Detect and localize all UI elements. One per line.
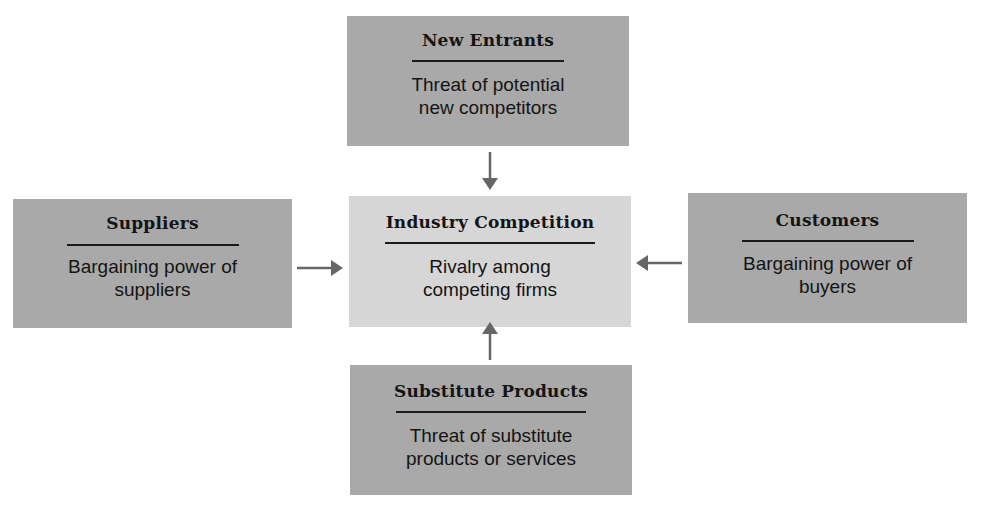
desc-line-1: Threat of substitute <box>350 424 632 447</box>
title-divider <box>67 244 239 246</box>
desc-line-2: new competitors <box>347 96 629 119</box>
node-title: Substitute Products <box>350 381 632 401</box>
node-description: Bargaining power of suppliers <box>13 255 292 301</box>
node-substitute-products: Substitute Products Threat of substitute… <box>350 365 632 495</box>
node-description: Threat of potential new competitors <box>347 73 629 119</box>
desc-line-1: Threat of potential <box>347 73 629 96</box>
node-customers: Customers Bargaining power of buyers <box>688 193 967 323</box>
node-description: Threat of substitute products or service… <box>350 424 632 470</box>
desc-line-1: Bargaining power of <box>13 255 292 278</box>
title-divider <box>385 242 595 244</box>
node-description: Bargaining power of buyers <box>688 252 967 298</box>
desc-line-1: Bargaining power of <box>688 252 967 275</box>
node-industry-competition: Industry Competition Rivalry among compe… <box>349 196 631 327</box>
desc-line-2: competing firms <box>349 278 631 301</box>
desc-line-2: buyers <box>688 275 967 298</box>
node-title: Industry Competition <box>349 212 631 232</box>
arrow-up-icon <box>480 320 500 360</box>
desc-line-1: Rivalry among <box>349 255 631 278</box>
node-title: New Entrants <box>347 30 629 50</box>
desc-line-2: products or services <box>350 447 632 470</box>
arrow-down-icon <box>480 152 500 192</box>
node-new-entrants: New Entrants Threat of potential new com… <box>347 16 629 146</box>
title-divider <box>396 411 586 413</box>
node-title: Customers <box>688 210 967 230</box>
arrow-left-icon <box>634 253 682 273</box>
title-divider <box>412 60 564 62</box>
arrow-right-icon <box>297 258 345 278</box>
node-title: Suppliers <box>13 213 292 233</box>
desc-line-2: suppliers <box>13 278 292 301</box>
node-suppliers: Suppliers Bargaining power of suppliers <box>13 199 292 328</box>
title-divider <box>742 240 914 242</box>
node-description: Rivalry among competing firms <box>349 255 631 301</box>
